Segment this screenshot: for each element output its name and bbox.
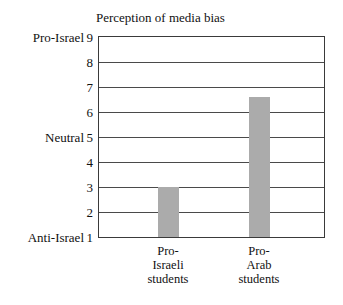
y-tick-label-3: 3 bbox=[73, 181, 93, 194]
y-tick-label-2: 2 bbox=[73, 206, 93, 219]
y-tick-label-7: 7 bbox=[73, 81, 93, 94]
y-tick-label-8: 8 bbox=[73, 56, 93, 69]
x-axis-label-pro-arab-students: Pro-Arabstudents bbox=[204, 244, 314, 286]
x-axis-label-line: students bbox=[204, 272, 314, 286]
y-tick-label-4: 4 bbox=[73, 156, 93, 169]
y-axis-anchor-neutral: Neutral bbox=[0, 131, 84, 144]
chart-figure: Perception of media bias 987654321Pro-Is… bbox=[0, 0, 343, 305]
x-axis-label-line: Arab bbox=[204, 258, 314, 272]
x-axis-label-line: Pro- bbox=[204, 244, 314, 258]
y-tick-label-6: 6 bbox=[73, 106, 93, 119]
y-axis-anchor-pro-israel: Pro-Israel bbox=[0, 31, 84, 44]
y-axis-anchor-anti-israel: Anti-Israel bbox=[0, 231, 84, 244]
